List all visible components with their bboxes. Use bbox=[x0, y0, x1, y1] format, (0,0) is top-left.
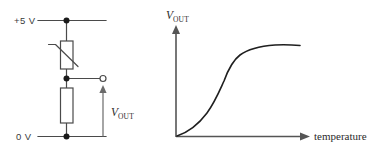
y-axis-arrow-icon bbox=[172, 25, 180, 34]
supply-label: +5 V bbox=[14, 15, 36, 26]
vout-measure-arrow-head-icon bbox=[99, 85, 106, 93]
supply-junction-dot bbox=[64, 18, 70, 24]
x-axis-arrow-icon bbox=[300, 133, 310, 141]
y-axis-label-sub: OUT bbox=[173, 15, 189, 24]
figure-container: +5 V 0 V V OUT V OUT temperature bbox=[0, 0, 388, 154]
vout-temperature-curve bbox=[177, 45, 300, 136]
y-axis-label: V OUT bbox=[166, 9, 189, 24]
circuit-vout-label-sub: OUT bbox=[118, 112, 134, 121]
circuit-diagram: +5 V 0 V V OUT bbox=[14, 15, 134, 142]
ground-label: 0 V bbox=[16, 131, 32, 142]
x-axis-label: temperature bbox=[314, 130, 367, 142]
mid-junction-dot bbox=[64, 76, 70, 82]
output-terminal-node[interactable] bbox=[100, 76, 106, 82]
circuit-vout-label: V OUT bbox=[111, 106, 134, 121]
ground-junction-dot bbox=[64, 134, 70, 140]
graph-plot: V OUT temperature bbox=[166, 9, 367, 142]
figure-svg: +5 V 0 V V OUT V OUT temperature bbox=[0, 0, 388, 154]
resistor-icon bbox=[61, 88, 74, 123]
